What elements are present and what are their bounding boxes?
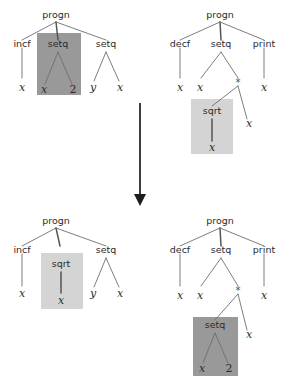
node-decf-br: decf <box>170 244 191 255</box>
node-multiply-br: * <box>236 285 241 296</box>
offspring-tree-2: progn decf x setq x * setq x 2 x print x <box>170 215 276 376</box>
node-setq-bl: setq <box>96 244 117 255</box>
leaf-x-print-br: x <box>261 289 268 302</box>
leaf-x-setq2-tl: x <box>117 81 124 94</box>
node-incf-tl: incf <box>13 38 31 49</box>
edge-setq-y-bl <box>94 258 106 287</box>
edge-op-setq-br <box>215 294 238 320</box>
node-setq2-tl: setq <box>96 38 117 49</box>
edge-op-x-br <box>238 294 247 330</box>
node-incf-bl: incf <box>13 244 31 255</box>
node-setq-br: setq <box>211 244 232 255</box>
leaf-x-setq-tl: x <box>41 83 48 96</box>
leaf-x-op-tr: x <box>246 117 253 130</box>
leaf-x-decf-br: x <box>177 289 184 302</box>
node-sqrt-highlight-bl: sqrt <box>52 258 71 269</box>
edge-setq-x-bl <box>106 258 119 287</box>
leaf-2-setq-tl: 2 <box>70 83 77 96</box>
edge-setq2-x-tl <box>106 52 119 81</box>
node-decf-tr: decf <box>170 38 191 49</box>
node-print-br: print <box>253 244 276 255</box>
leaf-x-op-br: x <box>246 328 253 341</box>
leaf-x-incf-tl: x <box>19 81 26 94</box>
edge-setq2-y-tl <box>94 52 106 81</box>
edge-setq-op-tr <box>221 52 238 78</box>
node-setq-highlight-br: setq <box>205 319 226 330</box>
leaf-x-print-tr: x <box>261 81 268 94</box>
leaf-x-sqrt-tr: x <box>209 141 216 154</box>
node-multiply-tr: * <box>236 77 241 88</box>
node-progn-bl: progn <box>42 215 70 226</box>
edge-setq-x-br <box>201 258 221 286</box>
node-setq-highlight-tl: setq <box>48 38 69 49</box>
downward-transformation-arrow <box>134 103 146 206</box>
leaf-x-sqrt-bl: x <box>58 294 65 307</box>
leaf-x-setq-bl: x <box>117 287 124 300</box>
leaf-x-setq-tr: x <box>197 81 204 94</box>
leaf-x-decf-tr: x <box>177 81 184 94</box>
leaf-2-setq-inner-br: 2 <box>226 362 233 375</box>
node-progn-tr: progn <box>206 9 234 20</box>
leaf-y-setq2-tl: y <box>89 81 97 94</box>
arrow-head <box>134 194 146 206</box>
parent-tree-2: progn decf x setq x * sqrt x x print x <box>170 9 276 154</box>
edge-root-sqrt-bl <box>56 228 60 246</box>
leaf-x-setq-br: x <box>197 289 204 302</box>
node-setq-tr: setq <box>211 38 232 49</box>
offspring-tree-1: progn incf x sqrt x setq y x <box>13 215 124 309</box>
leaf-x-incf-bl: x <box>19 287 26 300</box>
crossover-figure: progn incf x setq x 2 setq y x progn dec… <box>0 0 287 377</box>
parent-tree-1: progn incf x setq x 2 setq y x <box>13 9 124 96</box>
node-print-tr: print <box>253 38 276 49</box>
edge-setq-x-tr <box>201 52 221 78</box>
edge-setq-op-br <box>221 258 238 286</box>
node-progn-br: progn <box>206 215 234 226</box>
edge-op-x-tr <box>238 86 247 119</box>
leaf-y-setq-bl: y <box>89 287 97 300</box>
leaf-x-setq-inner-br: x <box>199 362 206 375</box>
node-sqrt-highlight-tr: sqrt <box>203 105 222 116</box>
node-progn-tl: progn <box>42 9 70 20</box>
tree-diagram-canvas: progn incf x setq x 2 setq y x progn dec… <box>0 0 287 377</box>
